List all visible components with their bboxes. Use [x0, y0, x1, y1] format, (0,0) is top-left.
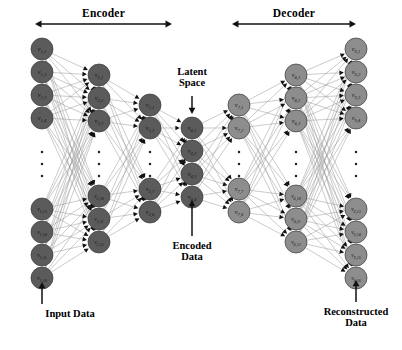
ellipsis-dot: [41, 151, 44, 154]
reconstructed-data-line-2: Data: [155, 317, 402, 328]
ellipsis-dot: [355, 151, 358, 154]
latent-space-annotation: Latent Space: [0, 66, 393, 89]
ellipsis-dot: [41, 175, 44, 178]
latent-space-line-1: Latent: [0, 66, 393, 77]
reconstructed-data-line-1: Reconstructed: [155, 306, 402, 317]
ellipsis-dot: [295, 175, 298, 178]
ellipsis-dot: [149, 151, 152, 154]
ellipsis-dot: [149, 175, 152, 178]
encoded-data-line-1: Encoded: [0, 240, 393, 251]
ellipsis-dot: [149, 163, 152, 166]
ellipsis-dot: [295, 151, 298, 154]
decoder-span-head-left: [232, 20, 239, 27]
ellipsis-dot: [98, 151, 101, 154]
encoded-data-line-2: Data: [0, 251, 393, 262]
ellipsis-dot: [98, 175, 101, 178]
ellipsis-dot: [238, 151, 241, 154]
ellipsis-dot: [98, 163, 101, 166]
ellipsis-dot: [295, 163, 298, 166]
autoencoder-diagram: v1,1v1,2v1,3v1,4v1,13v1,14v1,15v1,16v2,1…: [0, 0, 402, 350]
ellipsis-dot: [41, 163, 44, 166]
encoded-data-annotation: Encoded Data: [0, 240, 393, 263]
section-span-arrows: [35, 20, 356, 27]
encoder-span-head-right: [166, 20, 173, 27]
encoder-span-head-left: [35, 20, 42, 27]
decoder-span-head-right: [350, 20, 357, 27]
latent-space-line-2: Space: [0, 77, 393, 88]
ellipsis-dot: [238, 163, 241, 166]
ellipsis-dot: [355, 175, 358, 178]
latent-space-arrow-head: [189, 108, 196, 114]
section-label-decoder: Decoder: [93, 7, 402, 19]
ellipsis-dot: [238, 175, 241, 178]
ellipsis-dot: [355, 163, 358, 166]
reconstructed-data-label: Reconstructed Data: [155, 306, 402, 329]
